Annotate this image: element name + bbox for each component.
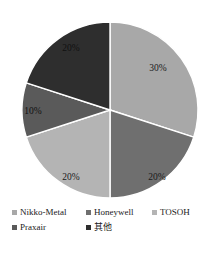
chart-legend: Nikko-Metal Honeywell TOSOH Praxair 其他 bbox=[12, 205, 210, 235]
legend-label: Nikko-Metal bbox=[20, 208, 67, 217]
pie-slice-value-label: 20% bbox=[148, 172, 166, 182]
legend-label: TOSOH bbox=[160, 208, 190, 217]
pie-slice-value-label: 30% bbox=[149, 63, 167, 73]
legend-item-praxair[interactable]: Praxair bbox=[12, 223, 86, 232]
legend-row: Nikko-Metal Honeywell TOSOH bbox=[12, 205, 210, 220]
pie-slices bbox=[22, 22, 198, 198]
legend-item-honeywell[interactable]: Honeywell bbox=[86, 208, 152, 217]
legend-row: Praxair 其他 bbox=[12, 220, 210, 235]
legend-label: 其他 bbox=[94, 223, 112, 232]
legend-swatch-icon bbox=[12, 210, 17, 215]
pie-slice-value-label: 10% bbox=[24, 106, 42, 116]
pie-chart: 30%20%20%10%20% bbox=[0, 0, 216, 200]
legend-item-other[interactable]: 其他 bbox=[86, 223, 112, 232]
legend-swatch-icon bbox=[12, 225, 17, 230]
pie-slice-value-label: 20% bbox=[62, 172, 80, 182]
legend-label: Praxair bbox=[20, 223, 46, 232]
legend-item-tosoh[interactable]: TOSOH bbox=[152, 208, 190, 217]
legend-swatch-icon bbox=[152, 210, 157, 215]
legend-label: Honeywell bbox=[94, 208, 134, 217]
legend-swatch-icon bbox=[86, 225, 91, 230]
pie-chart-svg: 30%20%20%10%20% bbox=[0, 0, 216, 202]
pie-slice-value-label: 20% bbox=[62, 43, 80, 53]
legend-item-nikko-metal[interactable]: Nikko-Metal bbox=[12, 208, 86, 217]
legend-swatch-icon bbox=[86, 210, 91, 215]
chart-figure: 30%20%20%10%20% Nikko-Metal Honeywell TO… bbox=[0, 0, 216, 254]
